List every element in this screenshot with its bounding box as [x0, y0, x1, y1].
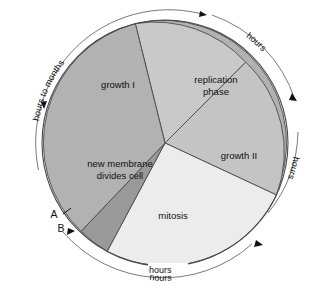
sector-label-growth-1: growth I [101, 79, 135, 90]
marker-a-label: A [50, 208, 57, 220]
marker-b-label: B [57, 222, 64, 234]
arrow-icon-bottom-right [254, 240, 263, 247]
sector-label-growth-2: growth II [221, 150, 257, 161]
sector-label-replication-phase-line2: phase [203, 86, 229, 97]
diagram-canvas: growth I replication phase growth II mit… [0, 0, 331, 288]
ring-label-hours-bottom-visible: hours [149, 265, 172, 275]
cell-cycle-diagram: growth I replication phase growth II mit… [0, 0, 331, 288]
arrow-icon-top [199, 11, 207, 17]
sector-group [43, 20, 286, 265]
sector-label-new-membrane-line2: divides cell [97, 170, 143, 181]
sector-label-replication-phase-line1: replication [194, 74, 237, 85]
sector-label-new-membrane-line1: new membrane [87, 158, 152, 169]
sector-label-mitosis: mitosis [158, 210, 188, 221]
ring-label-hours-right: hours [286, 156, 301, 181]
arrow-icon-marker-b [67, 228, 75, 235]
